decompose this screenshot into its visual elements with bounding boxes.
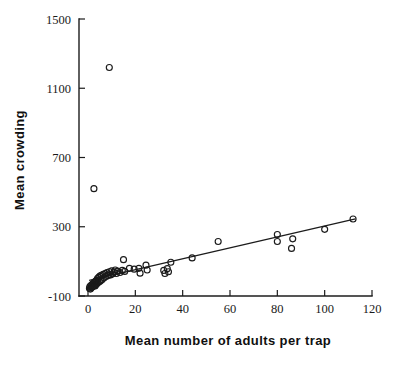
data-point <box>289 245 295 251</box>
data-point <box>290 236 296 242</box>
y-tick-label: 300 <box>52 220 71 234</box>
x-tick-label: 20 <box>129 302 142 316</box>
x-tick-label: 100 <box>315 302 334 316</box>
scatter-plot-figure: -10030070011001500020406080100120 Mean c… <box>0 0 399 365</box>
plot-svg: -10030070011001500020406080100120 Mean c… <box>0 0 399 365</box>
y-tick-label: 700 <box>52 151 71 165</box>
data-point <box>274 238 280 244</box>
data-point <box>91 186 97 192</box>
tick-labels-group: -10030070011001500020406080100120 <box>46 13 381 317</box>
y-axis-title: Mean crowding <box>12 110 27 210</box>
y-tick-label: 1500 <box>46 13 71 27</box>
y-tick-label: 1100 <box>46 82 71 96</box>
x-axis-title: Mean number of adults per trap <box>125 333 331 348</box>
y-tick-label: -100 <box>48 290 71 304</box>
data-point <box>322 226 328 232</box>
data-point <box>106 64 112 70</box>
x-tick-label: 60 <box>224 302 237 316</box>
x-tick-label: 120 <box>363 302 382 316</box>
data-point <box>215 238 221 244</box>
x-tick-label: 80 <box>271 302 284 316</box>
data-point <box>121 257 127 263</box>
data-point <box>189 255 195 261</box>
x-tick-label: 0 <box>85 302 91 316</box>
tick-marks-group <box>79 19 372 296</box>
axes-group <box>79 19 372 296</box>
x-tick-label: 40 <box>176 302 189 316</box>
data-points-group <box>86 64 356 292</box>
